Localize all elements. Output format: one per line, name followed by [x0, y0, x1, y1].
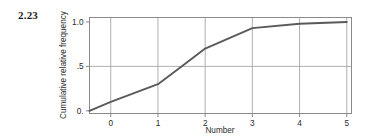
x-tick-label: 0: [108, 119, 113, 128]
y-tick-label: 1.0: [72, 18, 84, 27]
x-tick-label: 3: [250, 119, 255, 128]
y-tick-label: 0.: [77, 107, 84, 116]
y-axis-tick-labels: 0..51.0: [72, 18, 84, 116]
chart-frame: [90, 18, 352, 114]
y-axis-tick-marks: [86, 22, 90, 111]
x-axis-title: Number: [205, 126, 234, 135]
y-tick-label: .5: [77, 62, 84, 71]
x-tick-label: 1: [156, 119, 161, 128]
x-tick-label: 4: [297, 119, 302, 128]
figure-container: 2.23 012345 0..51.0 Number Cumulative re…: [0, 0, 367, 138]
x-axis-tick-marks: [111, 114, 347, 118]
chart-gridlines: [90, 18, 352, 114]
x-tick-label: 5: [344, 119, 349, 128]
plot-frame: [90, 18, 352, 114]
y-axis-title: Cumulative relative frequency: [59, 10, 68, 119]
cumulative-relative-frequency-chart: 012345 0..51.0 Number Cumulative relativ…: [0, 0, 367, 138]
